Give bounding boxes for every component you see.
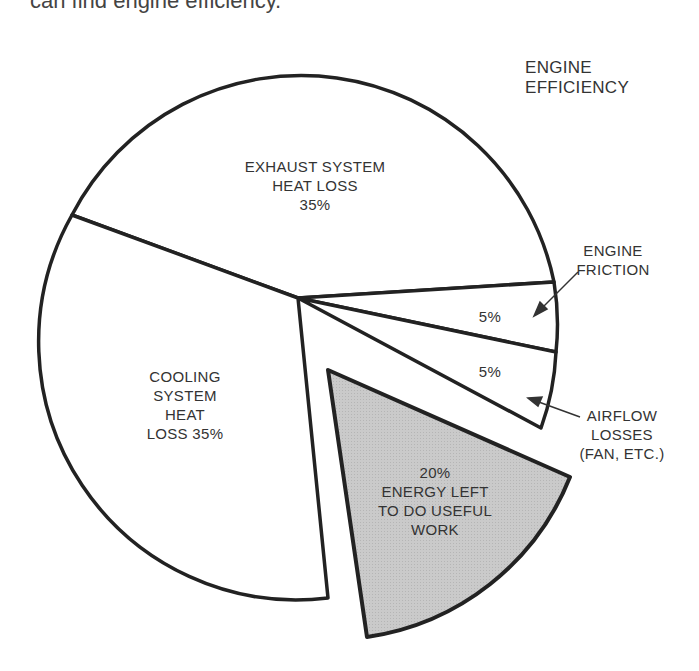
label-exhaust: EXHAUST SYSTEM HEAT LOSS 35% [225, 157, 405, 214]
callout-engine-friction: ENGINE FRICTION [568, 241, 658, 279]
label-airflow-value: 5% [460, 362, 520, 381]
callout-airflow-losses: AIRFLOW LOSSES (FAN, ETC.) [572, 406, 672, 463]
label-cooling: COOLING SYSTEM HEAT LOSS 35% [120, 367, 250, 443]
pie-chart [0, 0, 699, 671]
label-friction-value: 5% [460, 307, 520, 326]
label-useful-work: 20% ENERGY LEFT TO DO USEFUL WORK [365, 463, 505, 539]
